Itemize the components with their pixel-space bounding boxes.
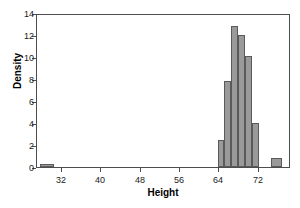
y-tick-label: 14 — [8, 10, 34, 19]
bars-layer — [37, 15, 289, 167]
x-tick-mark — [179, 168, 180, 172]
x-tick-mark — [140, 168, 141, 172]
histogram-bar — [224, 81, 231, 167]
plot-area — [36, 14, 290, 168]
histogram-bar — [252, 123, 259, 167]
x-tick-label: 72 — [243, 175, 273, 185]
x-tick-label: 48 — [125, 175, 155, 185]
x-tick-label: 56 — [164, 175, 194, 185]
x-tick-mark — [61, 168, 62, 172]
x-tick-mark — [218, 168, 219, 172]
x-tick-label: 64 — [203, 175, 233, 185]
x-tick-mark — [100, 168, 101, 172]
histogram-chart: 02468101214 324048566472 Density Height — [0, 0, 300, 208]
y-tick-label: 0 — [8, 164, 34, 173]
histogram-bar — [271, 158, 282, 167]
y-tick-label: 4 — [8, 120, 34, 129]
histogram-bar — [238, 35, 245, 167]
y-axis-title: Density — [13, 31, 23, 111]
x-tick-label: 40 — [85, 175, 115, 185]
x-axis-title: Height — [36, 188, 290, 198]
y-tick-label: 2 — [8, 142, 34, 151]
histogram-bar — [40, 164, 54, 167]
x-tick-mark — [258, 168, 259, 172]
histogram-bar — [245, 56, 252, 167]
histogram-bar — [218, 140, 225, 168]
x-tick-label: 32 — [46, 175, 76, 185]
histogram-bar — [231, 26, 238, 167]
